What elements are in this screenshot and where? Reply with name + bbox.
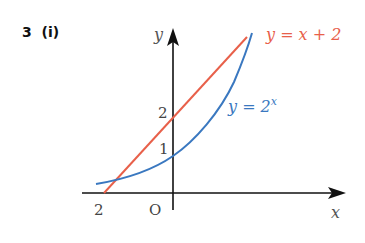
y-tick-label-1: 1: [159, 140, 169, 158]
line-annotation: y = x + 2: [265, 25, 341, 44]
curve-annotation: y = 2x: [227, 95, 278, 116]
y-tick-label-2: 2: [158, 104, 168, 122]
x-tick-label: 2: [94, 201, 104, 219]
y-axis-label: y: [153, 25, 164, 44]
x-axis-label: x: [331, 203, 340, 222]
line-y-equals-x-plus-2: [104, 37, 247, 193]
origin-label: O: [149, 201, 161, 219]
graph: y x O 2 2 1 y = x + 2 y = 2x: [0, 0, 365, 243]
